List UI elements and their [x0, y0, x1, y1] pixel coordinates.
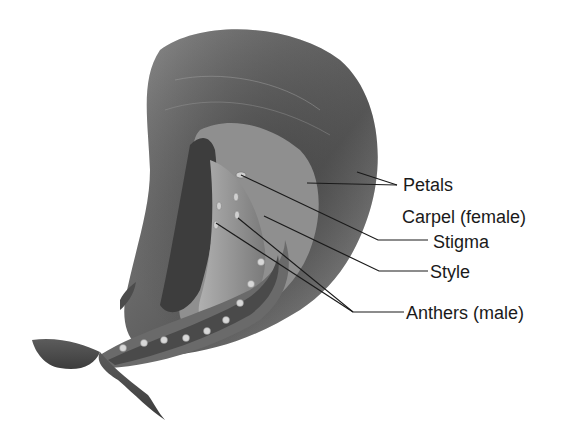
label-style: Style: [430, 262, 470, 282]
label-anthers: Anthers (male): [406, 303, 524, 323]
label-stigma: Stigma: [433, 232, 489, 252]
label-carpel: Carpel (female): [402, 207, 526, 227]
label-petals: Petals: [403, 175, 453, 195]
